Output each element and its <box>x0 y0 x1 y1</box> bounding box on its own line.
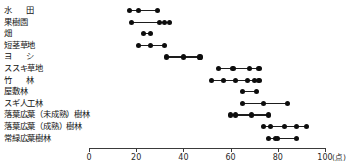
data-point <box>141 31 146 36</box>
chart-row: 短茎草地 <box>0 40 357 51</box>
row-plot <box>0 51 357 62</box>
data-point <box>266 112 271 117</box>
chart-row: 常緑広葉樹林 <box>0 133 357 144</box>
data-point <box>136 43 141 48</box>
data-point <box>249 112 254 117</box>
row-plot <box>0 63 357 74</box>
chart-row: 落葉広葉（未成熟）樹林 <box>0 109 357 120</box>
data-point <box>275 136 280 141</box>
row-plot <box>0 133 357 144</box>
axis-tick-label: 0 <box>86 153 91 163</box>
data-point <box>254 89 259 94</box>
data-point <box>247 66 252 71</box>
data-point <box>268 124 273 129</box>
data-point <box>261 101 266 106</box>
chart-row: ススキ草地 <box>0 63 357 74</box>
chart-row: 竹 林 <box>0 75 357 86</box>
data-point <box>136 8 141 13</box>
chart-row: 屋敷林 <box>0 86 357 97</box>
data-point <box>282 124 287 129</box>
x-axis: 020406080100 (点) <box>0 148 357 166</box>
row-plot <box>0 98 357 109</box>
data-point <box>167 20 172 25</box>
axis-tick-label: 60 <box>226 153 236 163</box>
data-point <box>233 78 238 83</box>
row-plot <box>0 121 357 132</box>
axis-tick <box>183 148 184 152</box>
data-point <box>256 78 261 83</box>
data-point <box>148 31 153 36</box>
axis-tick-label: 40 <box>178 153 188 163</box>
data-point <box>245 78 250 83</box>
data-point <box>240 101 245 106</box>
data-point <box>230 66 235 71</box>
row-plot <box>0 40 357 51</box>
chart-row: 水 田 <box>0 5 357 16</box>
data-point <box>209 78 214 83</box>
data-point <box>294 136 299 141</box>
chart-row: ヨ シ <box>0 51 357 62</box>
data-point <box>233 112 238 117</box>
range-line <box>219 68 259 69</box>
chart-row: スギ人工林 <box>0 98 357 109</box>
data-point <box>164 54 169 59</box>
axis-tick <box>325 148 326 152</box>
data-point <box>148 43 153 48</box>
row-plot <box>0 5 357 16</box>
data-point <box>155 8 160 13</box>
data-point <box>162 43 167 48</box>
axis-tick <box>136 148 137 152</box>
axis-tick <box>278 148 279 152</box>
data-point <box>256 66 261 71</box>
chart-row: 果樹園 <box>0 17 357 28</box>
chart-row: 落葉広葉（成熟）樹林 <box>0 121 357 132</box>
axis-tick <box>231 148 232 152</box>
dot-range-chart: 水 田果樹園畑短茎草地ヨ シススキ草地竹 林屋敷林スギ人工林落葉広葉（未成熟）樹… <box>0 0 357 166</box>
axis-unit-label: (点) <box>332 153 346 163</box>
row-plot <box>0 75 357 86</box>
range-line <box>129 10 157 11</box>
axis-line <box>89 148 325 149</box>
data-point <box>285 101 290 106</box>
data-point <box>294 124 299 129</box>
data-point <box>221 78 226 83</box>
data-point <box>266 136 271 141</box>
data-point <box>304 124 309 129</box>
axis-tick-label: 20 <box>131 153 141 163</box>
data-point <box>216 66 221 71</box>
row-plot <box>0 86 357 97</box>
axis-tick <box>89 148 90 152</box>
chart-row: 畑 <box>0 28 357 39</box>
row-plot <box>0 17 357 28</box>
axis-tick-label: 80 <box>273 153 283 163</box>
data-point <box>197 54 202 59</box>
row-plot <box>0 28 357 39</box>
data-point <box>261 124 266 129</box>
data-point <box>240 89 245 94</box>
row-plot <box>0 109 357 120</box>
axis-tick-label: 100 <box>317 153 332 163</box>
data-point <box>181 54 186 59</box>
data-point <box>127 8 132 13</box>
data-point <box>129 20 134 25</box>
